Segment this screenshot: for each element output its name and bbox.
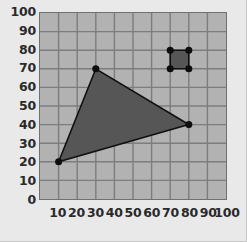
- y-tick-label: 40: [2, 119, 36, 132]
- y-tick-label: 10: [2, 175, 36, 188]
- y-tick-label: 90: [2, 25, 36, 38]
- vertex-marker: [92, 65, 99, 72]
- vertex-marker: [55, 158, 62, 165]
- vertex-marker: [167, 65, 174, 72]
- y-tick-label: 80: [2, 43, 36, 56]
- y-tick-label: 0: [2, 194, 36, 207]
- y-tick-label: 70: [2, 62, 36, 75]
- y-tick-label: 60: [2, 81, 36, 94]
- plot-area: [39, 12, 227, 200]
- x-tick-label: 100: [207, 207, 247, 220]
- vertex-marker: [185, 65, 192, 72]
- vertex-marker: [185, 47, 192, 54]
- y-tick-label: 50: [2, 100, 36, 113]
- chart-figure: 1009080706050403020100 10203040506070809…: [0, 0, 247, 242]
- vertex-marker: [185, 121, 192, 128]
- y-tick-label: 20: [2, 156, 36, 169]
- y-tick-label: 30: [2, 137, 36, 150]
- x-axis-tick-labels: 102030405060708090100: [39, 207, 227, 231]
- vertex-markers-layer: [40, 13, 226, 199]
- y-axis-tick-labels: 1009080706050403020100: [0, 12, 36, 200]
- vertex-marker: [167, 47, 174, 54]
- y-tick-label: 100: [2, 6, 36, 19]
